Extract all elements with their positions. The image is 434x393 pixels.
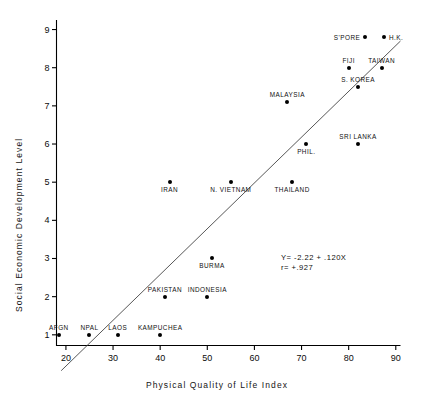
y-tick-label: 9 bbox=[38, 25, 50, 35]
regression-line bbox=[61, 41, 400, 371]
data-point-label: MALAYSIA bbox=[270, 91, 305, 98]
data-point bbox=[116, 333, 120, 337]
data-point bbox=[356, 142, 360, 146]
data-point bbox=[57, 333, 61, 337]
y-tick-label: 4 bbox=[38, 215, 50, 225]
x-axis-title: Physical Quality of Life Index bbox=[0, 380, 434, 390]
y-axis-title: Social Economic Development Level bbox=[14, 138, 24, 312]
data-point-label: H.K. bbox=[389, 34, 403, 41]
x-tick-label: 50 bbox=[202, 353, 212, 363]
data-point-label: PAKISTAN bbox=[148, 286, 182, 293]
y-tick-label: 5 bbox=[38, 177, 50, 187]
data-point-label: TAIWAN bbox=[368, 57, 395, 64]
x-tick-label: 60 bbox=[249, 353, 259, 363]
x-tick-label: 20 bbox=[61, 353, 71, 363]
data-point bbox=[382, 35, 386, 39]
data-point bbox=[285, 100, 289, 104]
y-tick-label: 6 bbox=[38, 139, 50, 149]
data-point-label: PHIL. bbox=[297, 148, 315, 155]
data-point bbox=[229, 180, 233, 184]
data-point-label: NPAL bbox=[80, 324, 98, 331]
data-point bbox=[168, 180, 172, 184]
data-point-label: FIJI bbox=[342, 57, 354, 64]
data-point-label: AFGN bbox=[49, 324, 69, 331]
x-tick-label: 70 bbox=[297, 353, 307, 363]
data-point-label: N. VIETNAM bbox=[210, 186, 251, 193]
data-point bbox=[205, 295, 209, 299]
data-point-label: IRAN bbox=[161, 186, 178, 193]
regression-annotation: Y= -2.22 + .120X r= +.927 bbox=[281, 253, 346, 273]
scatter-plot-figure: AFGNNPALLAOSKAMPUCHEAPAKISTANINDONESIABU… bbox=[0, 0, 434, 393]
data-point bbox=[304, 142, 308, 146]
y-tick-label: 1 bbox=[38, 330, 50, 340]
data-point bbox=[290, 180, 294, 184]
data-point bbox=[158, 333, 162, 337]
x-tick-label: 90 bbox=[391, 353, 401, 363]
data-point-label: S. KOREA bbox=[341, 76, 375, 83]
data-point bbox=[210, 256, 214, 260]
data-point bbox=[380, 66, 384, 70]
regression-correlation: r= +.927 bbox=[281, 263, 346, 273]
x-tick-label: 40 bbox=[155, 353, 165, 363]
data-point-label: BURMA bbox=[199, 262, 224, 269]
data-point bbox=[356, 85, 360, 89]
data-point bbox=[163, 295, 167, 299]
data-point-label: SRI LANKA bbox=[339, 133, 376, 140]
y-tick-label: 3 bbox=[38, 253, 50, 263]
x-tick-label: 30 bbox=[108, 353, 118, 363]
data-point-label: S'PORE bbox=[334, 34, 360, 41]
data-point-label: LAOS bbox=[108, 324, 127, 331]
data-point bbox=[363, 35, 367, 39]
y-tick-label: 7 bbox=[38, 101, 50, 111]
y-tick-label: 2 bbox=[38, 292, 50, 302]
data-point bbox=[347, 66, 351, 70]
data-point-label: INDONESIA bbox=[188, 286, 227, 293]
y-tick-label: 8 bbox=[38, 63, 50, 73]
data-point bbox=[87, 333, 91, 337]
x-tick-label: 80 bbox=[344, 353, 354, 363]
data-point-label: THAILAND bbox=[275, 186, 310, 193]
regression-equation: Y= -2.22 + .120X bbox=[281, 253, 346, 263]
data-point-label: KAMPUCHEA bbox=[138, 324, 183, 331]
